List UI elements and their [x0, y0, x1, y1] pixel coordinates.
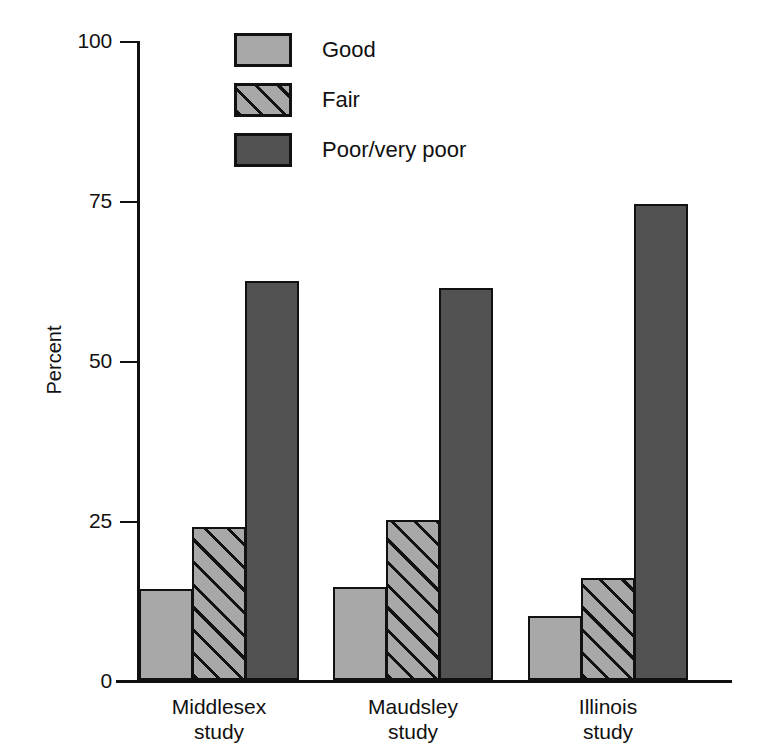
bar-middlesex-poor — [245, 281, 299, 680]
legend-swatch-poor-icon — [234, 133, 292, 167]
bar-chart-figure: 100 75 50 25 0 Percent Middlesex study M… — [0, 0, 758, 747]
legend-swatch-fair-icon — [234, 83, 292, 117]
legend-swatch-good-icon — [234, 33, 292, 67]
x-axis-label-illinois: Illinois study — [518, 694, 698, 744]
x-axis-label-middlesex: Middlesex study — [129, 694, 309, 744]
legend-item-poor: Poor/very poor — [234, 128, 466, 171]
bar-illinois-poor — [634, 204, 688, 680]
legend-item-fair: Fair — [234, 78, 466, 121]
bar-maudsley-poor — [439, 288, 493, 680]
legend-label-good: Good — [322, 39, 376, 61]
x-axis-label-maudsley: Maudsley study — [323, 694, 503, 744]
legend-label-poor: Poor/very poor — [322, 139, 466, 161]
legend-label-fair: Fair — [322, 89, 360, 111]
legend: Good Fair Poor/very poor — [234, 28, 466, 178]
bar-maudsley-good — [333, 587, 387, 680]
bar-illinois-good — [528, 616, 582, 680]
bar-illinois-fair — [581, 578, 635, 680]
bar-maudsley-fair — [386, 520, 440, 680]
bar-middlesex-good — [139, 589, 193, 680]
bar-middlesex-fair — [192, 527, 246, 680]
legend-item-good: Good — [234, 28, 466, 71]
